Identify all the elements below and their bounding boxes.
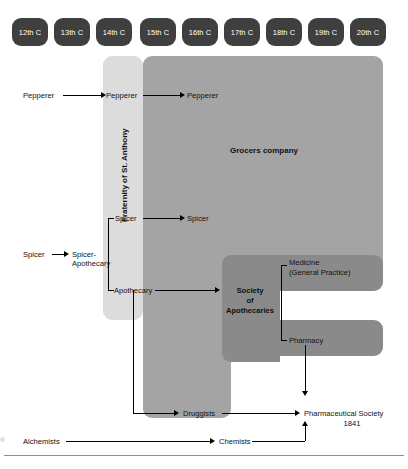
timeline-pill-17th-c[interactable]: 17th C [224, 18, 260, 46]
bracket-spicer-apothecary-spine [108, 218, 109, 290]
band-label-fraternity: Fraternity of St. Anthony [120, 129, 129, 222]
arrowhead-spicer-to-spicer-apothecary [64, 251, 69, 257]
diagram-canvas: 12th C 13th C 14th C 15th C 16th C 17th … [0, 0, 408, 469]
node-alchemists: Alchemists [23, 437, 60, 447]
arrowhead-alchemists-to-chemists [210, 438, 215, 444]
timeline-pill-15th-c[interactable]: 15th C [140, 18, 176, 46]
connector-alchemists-to-chemists [66, 441, 212, 442]
arrowhead-druggists-to-pharmaceutical-society [295, 410, 300, 416]
timeline-pill-label: 16th C [189, 28, 212, 37]
bracket-society-spine [281, 265, 282, 340]
footer-divider [4, 455, 404, 456]
bracket-society-top-arm [281, 265, 287, 266]
timeline-pill-12th-c[interactable]: 12th C [12, 18, 48, 46]
connector-pharmacy-to-pharmaceutical-society [305, 345, 306, 393]
node-medicine-line1: Medicine [289, 258, 319, 268]
band-grocers-company [143, 56, 383, 281]
node-spicer-grocers: Spicer [187, 214, 209, 224]
arrowhead-pepperer-to-grocers [180, 92, 185, 98]
connector-druggists-to-pharmaceutical-society [222, 413, 297, 414]
connector-apothecary-to-druggists-horizontal [133, 413, 176, 414]
timeline-pill-13th-c[interactable]: 13th C [54, 18, 90, 46]
node-pepperer-grocers: Pepperer [187, 91, 218, 101]
timeline-pill-label: 18th C [273, 28, 296, 37]
node-spicer-apothecary-line2: Apothecary [72, 259, 110, 269]
timeline-pill-19th-c[interactable]: 19th C [308, 18, 344, 46]
arrowhead-to-druggists [174, 410, 179, 416]
node-chemists: Chemists [219, 437, 251, 447]
node-society-line2: of [222, 296, 278, 306]
node-spicer-origin: Spicer [23, 250, 45, 260]
node-society-line3: Apothecaries [218, 306, 282, 316]
timeline-pill-16th-c[interactable]: 16th C [182, 18, 218, 46]
node-pharmacy: Pharmacy [289, 336, 323, 346]
timeline-pill-label: 20th C [357, 28, 380, 37]
node-druggists: Druggists [183, 409, 215, 419]
connector-pepperer-to-grocers [143, 95, 182, 96]
node-medicine-line2: (General Practice) [289, 268, 351, 278]
connector-chemists-to-pharmaceutical-society-vertical [305, 424, 306, 441]
band-label-grocers: Grocers company [230, 146, 298, 156]
connector-spicer-to-grocers [143, 218, 182, 219]
arrowhead-chemists-to-pharmaceutical-society [302, 421, 308, 426]
node-pepperer-fraternity: Pepperer [106, 91, 137, 101]
node-pharmaceutical-society-line2: 1841 [304, 419, 400, 429]
connector-apothecary-to-druggists-vertical [133, 290, 134, 413]
arrowhead-apothecary-to-society [215, 287, 220, 293]
connector-chemists-to-pharmaceutical-society-horizontal [252, 441, 305, 442]
node-pharmaceutical-society-line1: Pharmaceutical Society [304, 409, 383, 419]
timeline-pill-label: 19th C [315, 28, 338, 37]
timeline-pill-20th-c[interactable]: 20th C [350, 18, 386, 46]
timeline-pill-label: 13th C [61, 28, 84, 37]
node-pepperer-origin: Pepperer [23, 91, 54, 101]
page-edge-artifact [0, 437, 5, 442]
timeline-pill-label: 17th C [231, 28, 254, 37]
timeline-pill-label: 12th C [19, 28, 42, 37]
arrowhead-spicer-to-grocers [180, 215, 185, 221]
timeline-pill-label: 15th C [147, 28, 170, 37]
node-society-line1: Society [222, 286, 278, 296]
timeline-pill-18th-c[interactable]: 18th C [266, 18, 302, 46]
node-spicer-fraternity: Spicer [115, 214, 137, 224]
arrowhead-pharmacy-to-pharmaceutical-society [302, 391, 308, 396]
connector-apothecary-to-society [155, 290, 217, 291]
timeline-pill-label: 14th C [103, 28, 126, 37]
bracket-society-bottom-arm [281, 340, 287, 341]
band-grocers-company-stem [143, 260, 231, 418]
connector-pepperer-to-fraternity [63, 95, 103, 96]
timeline-pill-14th-c[interactable]: 14th C [96, 18, 132, 46]
bracket-spicer-apothecary-top-arm [108, 218, 114, 219]
